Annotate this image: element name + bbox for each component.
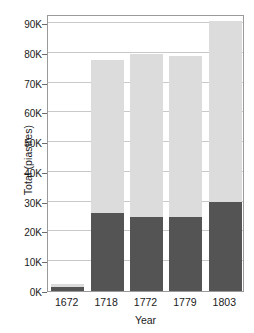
bar-segment-lower[interactable] — [91, 213, 124, 291]
bar-segment-upper[interactable] — [51, 284, 84, 288]
y-tick-label: 80K — [8, 48, 42, 59]
bar-group[interactable] — [91, 15, 124, 291]
bar-group[interactable] — [130, 15, 163, 291]
x-tick-label: 1718 — [94, 296, 117, 308]
y-tick-label: 60K — [8, 108, 42, 119]
bar-segment-upper[interactable] — [169, 56, 202, 216]
y-tick-mark — [42, 84, 47, 85]
y-tick-label: 40K — [8, 167, 42, 178]
bar-segment-lower[interactable] — [169, 217, 202, 291]
y-tick-mark — [42, 113, 47, 114]
bar-segment-lower[interactable] — [209, 202, 242, 291]
y-tick-label: 70K — [8, 78, 42, 89]
y-tick-mark — [42, 24, 47, 25]
bar-group[interactable] — [51, 15, 84, 291]
x-tick-label: 1772 — [134, 296, 157, 308]
chart-container: Total (piastres) 0K10K20K30K40K50K60K70K… — [0, 0, 254, 333]
y-tick-mark — [42, 173, 47, 174]
x-tick-label: 1779 — [173, 296, 196, 308]
y-axis-title: Total (piastres) — [22, 70, 34, 250]
bar-segment-upper[interactable] — [209, 21, 242, 201]
y-tick-mark — [42, 292, 47, 293]
bar-group[interactable] — [209, 15, 242, 291]
bar-segment-lower[interactable] — [51, 287, 84, 291]
y-tick-label: 20K — [8, 227, 42, 238]
y-tick-label: 50K — [8, 138, 42, 149]
x-tick-label: 1672 — [55, 296, 78, 308]
bar-segment-upper[interactable] — [130, 54, 163, 216]
y-tick-mark — [42, 232, 47, 233]
y-tick-mark — [42, 262, 47, 263]
y-tick-mark — [42, 54, 47, 55]
y-tick-label: 90K — [8, 18, 42, 29]
y-tick-label: 30K — [8, 197, 42, 208]
y-tick-mark — [42, 203, 47, 204]
bar-segment-upper[interactable] — [91, 60, 124, 212]
bar-segment-lower[interactable] — [130, 217, 163, 291]
y-tick-label: 0K — [8, 287, 42, 298]
x-tick-label: 1803 — [213, 296, 236, 308]
y-tick-mark — [42, 143, 47, 144]
plot-area — [47, 15, 244, 292]
bar-group[interactable] — [169, 15, 202, 291]
x-axis-title: Year — [47, 314, 244, 326]
y-tick-label: 10K — [8, 257, 42, 268]
